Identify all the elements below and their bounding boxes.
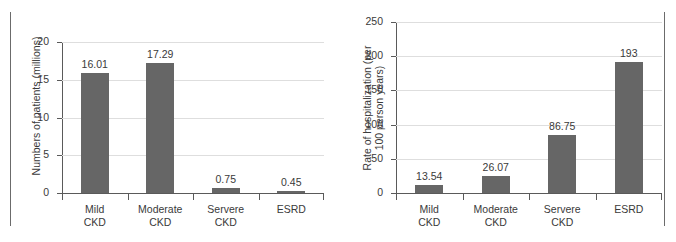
y-tick-label-hospitalization-0: 0: [377, 186, 383, 198]
x-tick: [193, 194, 194, 200]
bar-patients-0[interactable]: 16.01: [81, 73, 109, 193]
bar-value-label-patients-3: 0.45: [281, 176, 301, 188]
y-axis-spine: [396, 22, 397, 194]
y-tick-label-patients-15: 15: [37, 73, 49, 85]
y-tick-label-hospitalization-100: 100: [365, 118, 383, 130]
plot-area-hospitalization: 05010015020025013.54Mild CKD26.07Moderat…: [396, 22, 662, 194]
figure-container: Numbers of patients (millions) 051015201…: [0, 0, 676, 242]
x-tick: [529, 194, 530, 200]
x-axis-label-patients-0: Mild CKD: [60, 203, 130, 228]
y-tick-hospitalization-50: 50: [391, 159, 396, 160]
x-tick: [259, 194, 260, 200]
x-tick: [62, 194, 63, 200]
x-axis-label-hospitalization-0: Mild CKD: [394, 203, 464, 228]
plot-area-patients: 0510152016.01Mild CKD17.29Moderate CKD0.…: [62, 42, 324, 194]
y-tick-patients-15: 15: [57, 80, 62, 81]
x-tick: [128, 194, 129, 200]
figure-left-rule: [10, 12, 11, 226]
bar-hospitalization-2[interactable]: 86.75: [548, 135, 576, 193]
bar-hospitalization-3[interactable]: 193: [615, 62, 643, 193]
x-tick: [323, 194, 324, 200]
y-tick-patients-10: 10: [57, 118, 62, 119]
y-tick-label-patients-20: 20: [37, 35, 49, 47]
y-tick-hospitalization-100: 100: [391, 125, 396, 126]
bar-value-label-hospitalization-0: 13.54: [416, 170, 442, 182]
x-axis-label-hospitalization-2: Servere CKD: [527, 203, 597, 228]
y-tick-label-patients-0: 0: [43, 186, 49, 198]
x-axis-label-patients-3: ESRD: [256, 203, 326, 216]
y-tick-patients-5: 5: [57, 155, 62, 156]
chart-panel-patients: Numbers of patients (millions) 051015201…: [12, 0, 342, 242]
y-tick-label-hospitalization-200: 200: [365, 49, 383, 61]
bar-value-label-hospitalization-1: 26.07: [483, 161, 509, 173]
y-axis-title-hospitalization: Rate of hospitalization (per 100 person …: [361, 15, 385, 201]
y-tick-label-patients-5: 5: [43, 148, 49, 160]
x-tick: [661, 194, 662, 200]
bar-hospitalization-1[interactable]: 26.07: [482, 176, 510, 193]
y-tick-label-hospitalization-150: 150: [365, 83, 383, 95]
bar-patients-2[interactable]: 0.75: [212, 188, 240, 193]
x-tick: [596, 194, 597, 200]
gridline: [396, 22, 662, 23]
bar-value-label-patients-1: 17.29: [147, 48, 173, 60]
bar-patients-3[interactable]: 0.45: [277, 191, 305, 193]
y-tick-hospitalization-200: 200: [391, 56, 396, 57]
y-tick-patients-20: 20: [57, 42, 62, 43]
bar-hospitalization-0[interactable]: 13.54: [415, 185, 443, 193]
bar-patients-1[interactable]: 17.29: [146, 63, 174, 193]
x-tick: [463, 194, 464, 200]
x-tick: [396, 194, 397, 200]
x-axis-label-hospitalization-1: Moderate CKD: [461, 203, 531, 228]
bar-value-label-patients-0: 16.01: [82, 58, 108, 70]
bar-value-label-hospitalization-2: 86.75: [549, 120, 575, 132]
x-axis-label-patients-2: Servere CKD: [191, 203, 261, 228]
y-tick-hospitalization-150: 150: [391, 90, 396, 91]
x-axis-label-hospitalization-3: ESRD: [594, 203, 664, 216]
gridline: [62, 42, 324, 43]
bar-value-label-hospitalization-3: 193: [620, 47, 638, 59]
y-tick-hospitalization-250: 250: [391, 22, 396, 23]
chart-panel-hospitalization: Rate of hospitalization (per 100 person …: [348, 0, 676, 242]
y-tick-label-hospitalization-50: 50: [371, 152, 383, 164]
y-tick-label-hospitalization-250: 250: [365, 15, 383, 27]
x-axis-label-patients-1: Moderate CKD: [125, 203, 195, 228]
bar-value-label-patients-2: 0.75: [216, 173, 236, 185]
y-tick-label-patients-10: 10: [37, 111, 49, 123]
